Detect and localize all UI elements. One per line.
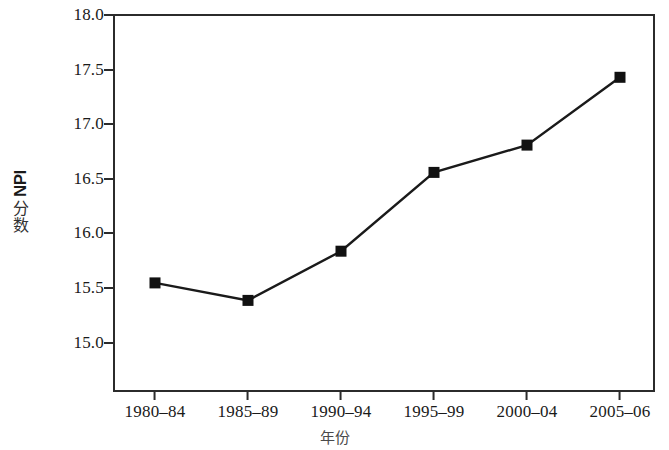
- x-axis-title: 年份: [0, 426, 669, 447]
- y-axis-tick-label: 16.0: [73, 224, 104, 242]
- y-axis-tick-label: 17.0: [73, 115, 104, 133]
- x-axis-tick: 2005–06: [590, 392, 651, 422]
- plot-area: [113, 14, 655, 392]
- y-axis-title-latin: NPI: [12, 169, 29, 199]
- y-axis-tick-label: 16.5: [73, 170, 104, 188]
- y-axis-tick-label: 17.5: [73, 61, 104, 79]
- x-axis-tick-label: 1990–94: [311, 402, 372, 422]
- x-axis-tick-label: 1995–99: [404, 402, 465, 422]
- y-axis-tick-mark: [104, 342, 113, 344]
- x-axis-tick: 1990–94: [311, 392, 372, 422]
- y-axis-tick-mark: [104, 287, 113, 289]
- y-axis-tick-label: 15.0: [73, 334, 104, 352]
- x-axis-tick-mark: [433, 392, 435, 400]
- x-axis-tick: 1995–99: [404, 392, 465, 422]
- y-axis-tick-label: 15.5: [73, 279, 104, 297]
- x-axis-tick-mark: [247, 392, 249, 400]
- x-axis-tick: 2000–04: [497, 392, 558, 422]
- y-axis-title-cjk: 分数: [6, 201, 36, 235]
- x-axis-tick-label: 2000–04: [497, 402, 558, 422]
- x-axis-tick: 1980–84: [125, 392, 186, 422]
- chart-figure: 18.0 17.5 17.0 16.5 16.0 15.5 15.0 N: [0, 0, 669, 450]
- y-axis-title: NPI 分数: [6, 166, 36, 235]
- x-axis-tick-mark: [340, 392, 342, 400]
- x-axis-tick-label: 1985–89: [218, 402, 279, 422]
- x-axis-tick-mark: [154, 392, 156, 400]
- x-axis-tick-label: 2005–06: [590, 402, 651, 422]
- x-axis-tick: 1985–89: [218, 392, 279, 422]
- y-axis-tick-mark: [104, 14, 113, 16]
- x-axis: 1980–84 1985–89 1990–94 1995–99 2000–04 …: [0, 392, 669, 422]
- y-axis-tick-mark: [104, 232, 113, 234]
- y-axis-tick-mark: [104, 178, 113, 180]
- y-axis-tick-mark: [104, 123, 113, 125]
- x-axis-tick-mark: [619, 392, 621, 400]
- x-axis-tick-mark: [526, 392, 528, 400]
- x-axis-tick-label: 1980–84: [125, 402, 186, 422]
- y-axis-tick-label: 18.0: [73, 6, 104, 24]
- y-axis-tick-mark: [104, 69, 113, 71]
